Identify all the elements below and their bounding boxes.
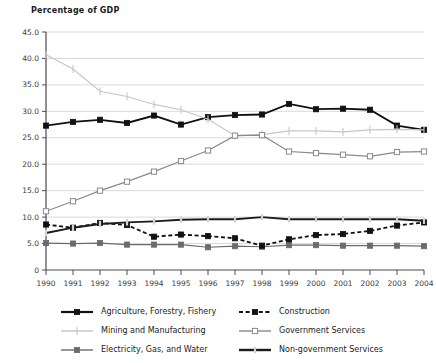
series-layer <box>43 51 426 250</box>
legend-label: Electricity, Gas, and Water <box>101 345 207 354</box>
y-tick-label: 30.0 <box>22 107 39 116</box>
data-point <box>232 244 237 249</box>
x-tick-label: 1994 <box>144 279 163 288</box>
y-tick-label: 35.0 <box>22 80 39 89</box>
data-point <box>367 228 372 233</box>
y-tick-label: 0 <box>34 266 39 275</box>
y-tick-label: 40.0 <box>22 54 39 63</box>
data-point <box>340 152 345 157</box>
x-axis <box>46 270 424 275</box>
data-point <box>367 154 372 159</box>
data-point <box>178 122 183 127</box>
x-tick-label: 1997 <box>225 279 244 288</box>
data-point <box>151 234 156 239</box>
legend-item-construction[interactable]: Construction <box>238 307 428 317</box>
legend-label: Construction <box>279 307 330 316</box>
legend-item-government-services[interactable]: Government Services <box>238 326 428 336</box>
data-point <box>97 188 102 193</box>
legend-swatch-plus-light <box>238 345 272 355</box>
data-point <box>74 347 79 352</box>
data-point <box>97 117 102 122</box>
series-line <box>46 55 424 136</box>
data-point <box>313 243 318 248</box>
data-point <box>252 328 257 333</box>
legend-item-electricity-gas-and-water[interactable]: Electricity, Gas, and Water <box>60 345 238 355</box>
data-point <box>124 179 129 184</box>
data-point <box>367 243 372 248</box>
x-tick-label: 1999 <box>279 279 298 288</box>
legend-label: Agriculture, Forestry, Fishery <box>101 307 216 316</box>
data-point <box>340 106 345 111</box>
data-point <box>259 112 264 117</box>
data-point <box>151 242 156 247</box>
data-point <box>313 107 318 112</box>
data-point <box>205 234 210 239</box>
data-point <box>394 243 399 248</box>
legend-swatch-plus <box>60 326 94 336</box>
data-point <box>286 237 291 242</box>
data-point <box>394 223 399 228</box>
y-tick-label: 15.0 <box>22 186 39 195</box>
x-tick-label: 1991 <box>63 279 82 288</box>
data-point <box>259 243 264 248</box>
y-tick-labels: 45.040.035.030.025.020.015.010.05.00 <box>22 28 39 275</box>
data-point <box>259 133 264 138</box>
data-point <box>74 309 79 314</box>
legend-swatch-square-filled <box>60 307 94 317</box>
legend-item-mining-and-manufacturing[interactable]: Mining and Manufacturing <box>60 326 238 336</box>
data-point <box>421 244 426 249</box>
legend-item-agriculture-forestry-fishery[interactable]: Agriculture, Forestry, Fishery <box>60 307 238 317</box>
data-point <box>232 133 237 138</box>
data-point <box>232 236 237 241</box>
data-point <box>205 245 210 250</box>
x-tick-label: 1996 <box>198 279 217 288</box>
x-tick-label: 2003 <box>387 279 406 288</box>
x-tick-label: 2004 <box>414 279 433 288</box>
data-point <box>43 240 48 245</box>
data-point <box>178 242 183 247</box>
data-point <box>178 158 183 163</box>
legend-label: Non-government Services <box>279 345 383 354</box>
legend-swatch-square-filled <box>238 307 272 317</box>
x-tick-label: 1992 <box>90 279 109 288</box>
data-point <box>151 113 156 118</box>
y-tick-label: 20.0 <box>22 160 39 169</box>
data-point <box>43 209 48 214</box>
data-point <box>286 101 291 106</box>
legend-label: Government Services <box>279 326 365 335</box>
y-tick-label: 10.0 <box>22 213 39 222</box>
data-point <box>286 149 291 154</box>
data-point <box>124 120 129 125</box>
x-tick-label: 1990 <box>36 279 55 288</box>
data-point <box>313 232 318 237</box>
data-point <box>43 123 48 128</box>
x-tick-label: 1998 <box>252 279 271 288</box>
data-point <box>151 169 156 174</box>
chart-figure: Percentage of GDP 45.040.035.030.025.020… <box>0 0 436 363</box>
legend-swatch-square-open <box>238 326 272 336</box>
data-point <box>43 222 48 227</box>
data-point <box>313 151 318 156</box>
y-tick-label: 25.0 <box>22 133 39 142</box>
data-point <box>340 231 345 236</box>
legend-swatch-square-filled <box>60 345 94 355</box>
x-tick-label: 2001 <box>333 279 352 288</box>
data-point <box>367 107 372 112</box>
data-point <box>232 112 237 117</box>
data-point <box>421 149 426 154</box>
x-tick-labels: 1990199119921993199419951996199719981999… <box>36 279 433 288</box>
x-tick-label: 1993 <box>117 279 136 288</box>
data-point <box>178 232 183 237</box>
chart-plot-area: 45.040.035.030.025.020.015.010.05.00 199… <box>0 0 436 300</box>
legend-item-non-government-services[interactable]: Non-government Services <box>238 345 428 355</box>
series-electricity-gas-and-water <box>43 240 426 249</box>
x-tick-label: 2002 <box>360 279 379 288</box>
data-point <box>70 241 75 246</box>
data-point <box>124 242 129 247</box>
series-government-services <box>43 133 426 214</box>
series-line <box>46 135 424 211</box>
data-point <box>70 119 75 124</box>
data-point <box>97 240 102 245</box>
data-point <box>70 199 75 204</box>
legend-label: Mining and Manufacturing <box>101 326 206 335</box>
